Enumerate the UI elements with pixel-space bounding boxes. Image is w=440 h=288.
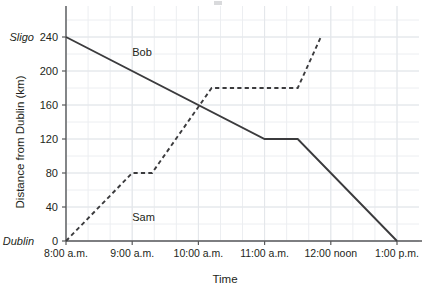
y-tick-label: 80: [46, 167, 58, 179]
y-tick-label: 120: [40, 133, 58, 145]
axes: [66, 6, 422, 241]
x-tick-label: 10:00 a.m.: [174, 247, 224, 259]
series-label-bob: Bob: [132, 46, 152, 58]
series-label-sam: Sam: [132, 211, 155, 223]
grid-minor: [66, 6, 419, 241]
chart-canvas: 04080120160200240 8:00 a.m.9:00 a.m.10:0…: [0, 0, 440, 288]
tick-marks: [62, 37, 397, 245]
x-axis-title: Time: [212, 273, 237, 285]
y-tick-label: 0: [52, 235, 58, 247]
y-axis-title: Distance from Dublin (km): [14, 75, 26, 208]
destination-label: Sligo: [10, 31, 34, 43]
x-tick-label: 1:00 p.m.: [375, 247, 419, 259]
cropped-title-remnant: [214, 1, 222, 5]
x-tick-labels: 8:00 a.m.9:00 a.m.10:00 a.m.11:00 a.m.12…: [44, 247, 419, 259]
x-tick-label: 9:00 a.m.: [110, 247, 154, 259]
x-tick-label: 11:00 a.m.: [240, 247, 289, 259]
y-tick-labels: 04080120160200240: [40, 31, 58, 247]
x-tick-label: 12:00 noon: [305, 247, 358, 259]
y-tick-label: 40: [46, 201, 58, 213]
y-tick-label: 200: [40, 65, 58, 77]
origin-label: Dublin: [3, 235, 34, 247]
y-tick-label: 160: [40, 99, 58, 111]
y-tick-label: 240: [40, 31, 58, 43]
x-tick-label: 8:00 a.m.: [44, 247, 88, 259]
distance-time-chart: 04080120160200240 8:00 a.m.9:00 a.m.10:0…: [0, 0, 440, 288]
